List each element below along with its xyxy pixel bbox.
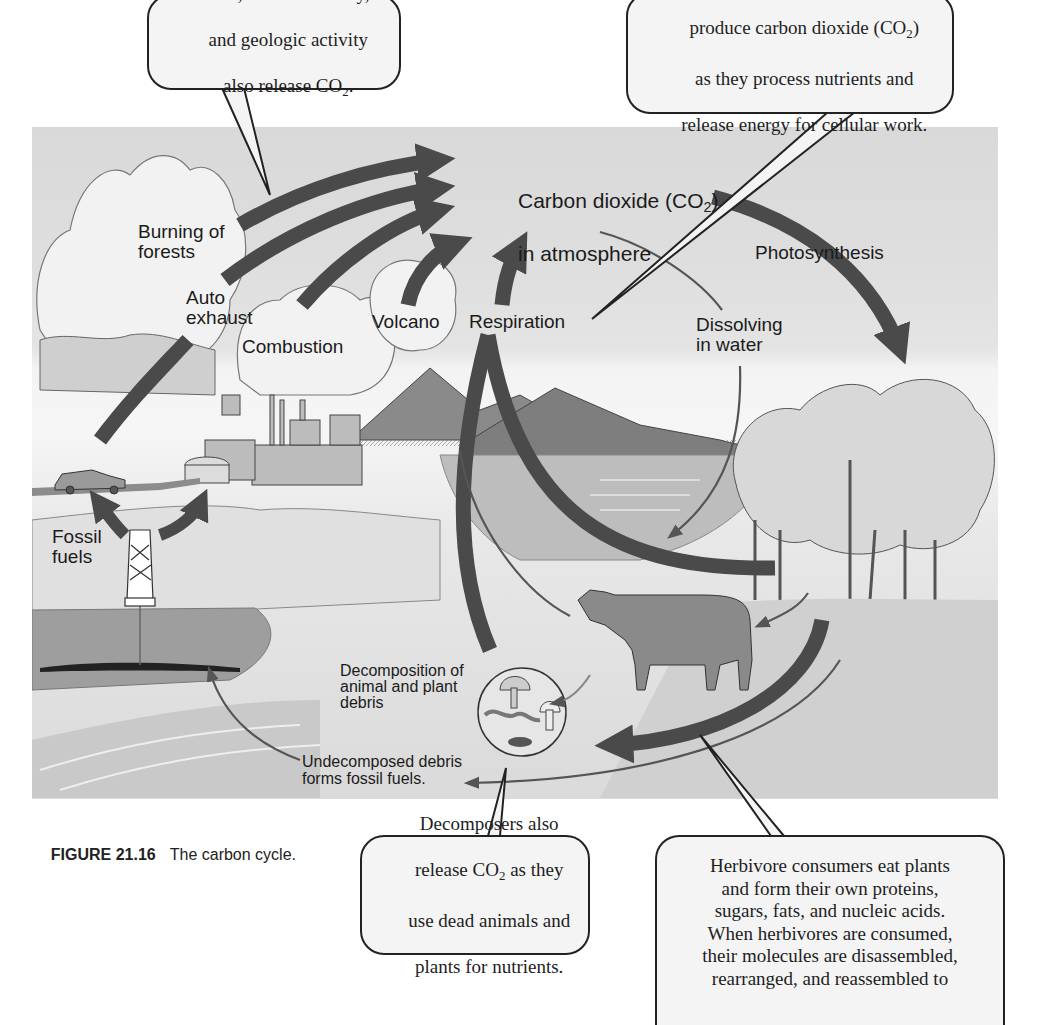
figure-caption-text: The carbon cycle. — [170, 846, 296, 863]
carnivores-callout-line4: release energy for cellular work. — [681, 114, 927, 135]
figure-number: FIGURE 21.16 — [51, 846, 156, 863]
oil-derrick — [125, 530, 155, 606]
photosynthesis-label: Photosynthesis — [755, 243, 884, 263]
auto-exhaust-label: Auto exhaust — [186, 288, 253, 328]
atmosphere-label-line2: in atmosphere — [518, 242, 651, 265]
decomposers-callout: Decomposers also release CO2 as they use… — [360, 835, 590, 955]
fossil-fuels-label: Fossil fuels — [52, 527, 102, 567]
carnivores-callout-line2: produce carbon dioxide (CO — [689, 17, 906, 38]
burning-forests-label: Burning of forests — [138, 222, 225, 262]
decomposers-callout-line2-end: as they — [505, 859, 563, 880]
respiration-label: Respiration — [469, 312, 565, 332]
fire-callout-line2: and geologic activity — [209, 29, 368, 50]
carbon-cycle-illustration: Carbon dioxide (CO2) in atmosphere Burni… — [32, 127, 998, 799]
carnivores-herbivores-callout: Carnivores and herbivores produce carbon… — [626, 0, 954, 114]
decomposition-label: Decomposition of animal and plant debris — [340, 663, 464, 711]
decomposers-callout-line1: Decomposers also — [420, 813, 559, 834]
decomposer-circle — [478, 668, 566, 756]
herbivore-callout-text: Herbivore consumers eat plants and form … — [702, 855, 957, 990]
co2-subscript: 2 — [704, 199, 712, 215]
combustion-label: Combustion — [242, 337, 343, 357]
fire-callout-line1: Fire, human industry, — [207, 0, 369, 4]
herbivore-consumers-callout: Herbivore consumers eat plants and form … — [655, 835, 1005, 1025]
factory — [185, 395, 362, 485]
dissolving-label: Dissolving in water — [696, 315, 783, 355]
fire-industry-callout: Fire, human industry, and geologic activ… — [147, 0, 401, 90]
volcano-label: Volcano — [372, 312, 440, 332]
trees — [733, 379, 994, 554]
atmosphere-co2-label: Carbon dioxide (CO2) in atmosphere — [483, 166, 719, 288]
decomposers-callout-line2: release CO — [415, 859, 499, 880]
mountains — [350, 368, 780, 460]
atmosphere-label-line1: Carbon dioxide (CO — [518, 189, 704, 212]
carnivores-callout-paren: ) — [913, 17, 919, 38]
fire-callout-line3: also release CO — [223, 75, 342, 96]
figure-caption: FIGURE 21.16The carbon cycle. — [33, 828, 296, 882]
atmosphere-label-paren: ) — [712, 189, 719, 212]
undecomposed-label: Undecomposed debris forms fossil fuels. — [302, 753, 462, 787]
decomposers-callout-line3: use dead animals and — [408, 910, 570, 931]
carnivores-callout-line3: as they process nutrients and — [695, 68, 913, 89]
oil-deposit — [32, 606, 271, 690]
fire-callout-period: . — [349, 75, 354, 96]
decomposers-callout-line4: plants for nutrients. — [415, 956, 563, 977]
